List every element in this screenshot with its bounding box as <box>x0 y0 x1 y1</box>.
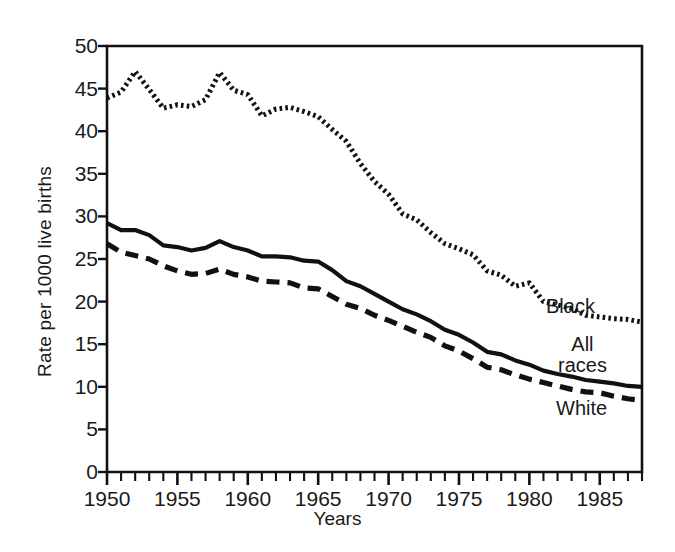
y-tick-label: 5 <box>40 418 98 439</box>
x-tick-label: 1970 <box>349 488 429 509</box>
y-tick-label: 25 <box>40 248 98 269</box>
series-label-black: Black <box>546 296 595 317</box>
x-tick-label: 1975 <box>419 488 499 509</box>
series-label-all-races: Allraces <box>558 334 607 376</box>
x-tick-label: 1980 <box>489 488 569 509</box>
y-tick-label: 50 <box>40 35 98 56</box>
x-tick-label: 1955 <box>137 488 217 509</box>
y-tick-label: 45 <box>40 78 98 99</box>
y-tick-label: 20 <box>40 291 98 312</box>
x-tick-label: 1950 <box>67 488 147 509</box>
y-tick-label: 30 <box>40 205 98 226</box>
x-axis-title: Years <box>0 508 675 530</box>
series-label-line: All <box>558 334 607 355</box>
infant-mortality-line-chart: Rate per 1000 live births 05101520253035… <box>0 0 675 552</box>
y-axis-ticks <box>98 46 107 472</box>
x-axis-ticks <box>107 472 642 485</box>
x-tick-label: 1965 <box>278 488 358 509</box>
y-tick-label: 40 <box>40 120 98 141</box>
series-label-line: races <box>558 355 607 376</box>
x-tick-label: 1985 <box>560 488 640 509</box>
y-tick-label: 10 <box>40 376 98 397</box>
y-tick-label: 15 <box>40 333 98 354</box>
y-tick-label: 35 <box>40 163 98 184</box>
x-tick-label: 1960 <box>208 488 288 509</box>
series-line-black <box>107 72 642 322</box>
y-tick-label: 0 <box>40 461 98 482</box>
series-label-white: White <box>556 398 607 419</box>
chart-canvas <box>0 0 675 552</box>
